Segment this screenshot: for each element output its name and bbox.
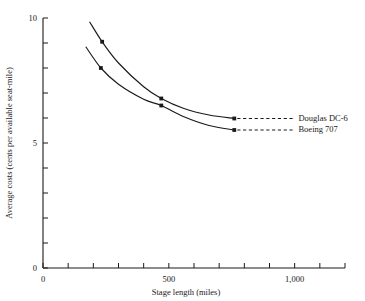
data-series-group [86,22,236,132]
x-axis-tick-label: 1,000 [285,274,304,284]
x-axis-title: Stage length (miles) [152,287,221,297]
y-axis-title: Average costs (cents per available seat-… [4,67,14,219]
data-point-marker [159,104,163,108]
y-axis-tick-label: 10 [29,13,38,23]
x-axis: 05001,000 [41,263,345,284]
series-2 [86,47,236,132]
legend-label: Douglas DC-6 [298,113,347,123]
x-axis-tick-label: 0 [41,274,45,284]
x-axis-tick-label: 500 [162,274,175,284]
chart-canvas: 0510 05001,000 Stage length (miles) Aver… [0,0,365,301]
series-curve [86,47,234,130]
data-point-marker [159,97,163,101]
y-axis-tick-label: 0 [33,263,37,273]
y-axis: 0510 [29,13,49,273]
data-point-marker [100,40,104,44]
legend-leader-lines [237,119,294,131]
data-point-marker [232,117,236,121]
data-point-marker [232,128,236,132]
y-axis-tick-label: 5 [33,138,37,148]
legend-label: Boeing 707 [298,124,337,134]
cost-vs-stage-length-chart: 0510 05001,000 Stage length (miles) Aver… [0,0,365,301]
data-point-marker [99,66,103,70]
